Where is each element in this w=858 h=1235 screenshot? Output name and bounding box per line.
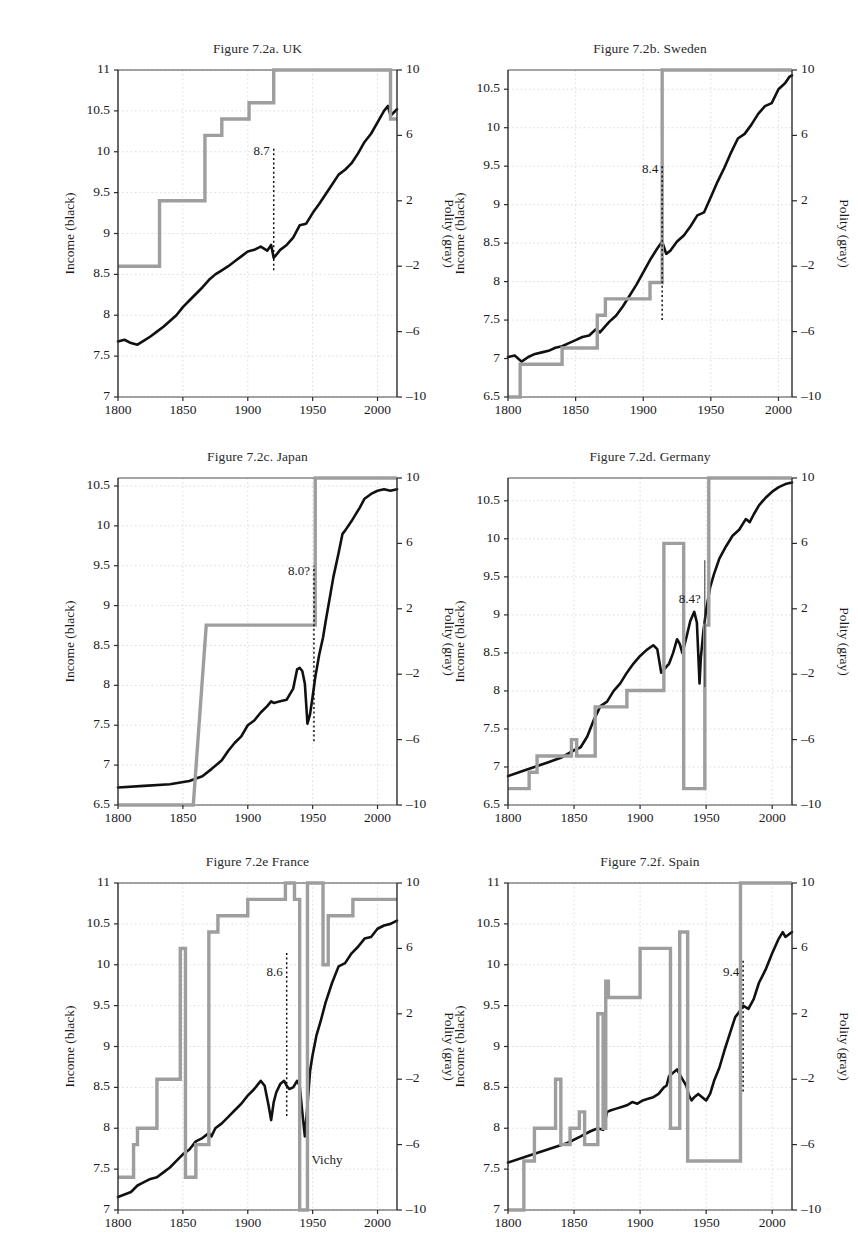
x-tick-label: 1950 (693, 1215, 720, 1230)
y-tick-label: 7 (493, 1201, 500, 1216)
x-axis-uk: 18001850190019502000 (105, 397, 392, 417)
panel-uk: Figure 7.2a. UK8.777.588.599.51010.511–1… (60, 40, 455, 425)
x-tick-label: 1800 (495, 810, 522, 825)
x-tick-label: 1800 (495, 1215, 522, 1230)
y-tick-label: 8.5 (93, 1078, 110, 1093)
y-axis-title-polity: Polity (gray) (837, 199, 850, 268)
y-tick-label: 10 (487, 119, 501, 134)
y-axis-left-spain: 77.588.599.51010.511 (476, 874, 508, 1216)
polity-tick-label: –2 (800, 1070, 815, 1085)
polity-tick-label: –6 (405, 323, 420, 338)
y-tick-label: 11 (97, 874, 110, 889)
y-tick-label: 9.5 (483, 568, 500, 583)
y-axis-left-japan: 6.577.588.599.51010.5 (86, 477, 118, 811)
polity-tick-label: –10 (405, 1201, 427, 1216)
panel-title-japan: Figure 7.2c. Japan (60, 448, 455, 466)
polity-tick-label: –2 (800, 257, 815, 272)
y-tick-label: 10 (97, 143, 111, 158)
panel-sweden: Figure 7.2b. Sweden8.46.577.588.599.5101… (450, 40, 850, 425)
polity-tick-label: 6 (801, 534, 808, 549)
polity-tick-label: –10 (800, 1201, 822, 1216)
x-tick-label: 1950 (299, 1215, 326, 1230)
annotation-label-germany-0: 8.4? (679, 591, 701, 606)
y-axis-left-sweden: 6.577.588.599.51010.5 (476, 80, 508, 403)
x-tick-label: 1800 (495, 402, 522, 417)
y-tick-label: 9 (103, 225, 110, 240)
x-axis-spain: 18001850190019502000 (495, 1210, 786, 1230)
polity-tick-label: –10 (800, 388, 822, 403)
x-tick-label: 1850 (562, 402, 589, 417)
x-tick-label: 1850 (169, 810, 196, 825)
polity-tick-label: –6 (800, 1136, 815, 1151)
y-axis-title-income: Income (black) (452, 600, 467, 682)
x-axis-germany: 18001850190019502000 (495, 805, 786, 825)
x-tick-label: 1850 (169, 402, 196, 417)
polity-series-japan (118, 478, 397, 805)
y-axis-left-uk: 77.588.599.51010.511 (86, 61, 118, 403)
y-axis-title-income: Income (black) (452, 1005, 467, 1087)
x-tick-label: 2000 (364, 402, 391, 417)
polity-tick-label: 2 (406, 1005, 413, 1020)
y-axis-left-france: 77.588.599.51010.511 (86, 874, 118, 1216)
y-tick-label: 6.5 (93, 796, 110, 811)
x-tick-label: 1950 (693, 810, 720, 825)
annotation-uk-0: 8.7 (253, 143, 273, 271)
axis-spines-sweden (508, 70, 792, 397)
gridlines-spain (508, 883, 792, 1210)
y-tick-label: 11 (487, 874, 500, 889)
y-tick-label: 9 (103, 1038, 110, 1053)
annotation-label-spain-0: 9.4 (723, 964, 740, 979)
y-tick-label: 8 (493, 1119, 500, 1134)
y-tick-label: 9.5 (483, 157, 500, 172)
plot-spain: 9.477.588.599.51010.511–10–6–22610180018… (450, 871, 850, 1235)
y-tick-label: 7.5 (93, 347, 110, 362)
y-tick-label: 9.5 (483, 997, 500, 1012)
polity-tick-label: 10 (406, 469, 420, 484)
x-tick-label: 2000 (364, 1215, 391, 1230)
y-tick-label: 8 (103, 1119, 110, 1134)
x-tick-label: 1950 (697, 402, 724, 417)
polity-reference-line-japan (118, 478, 397, 805)
y-tick-label: 7 (103, 756, 110, 771)
x-tick-label: 1850 (561, 1215, 588, 1230)
x-tick-label: 1900 (627, 1215, 654, 1230)
x-tick-label: 2000 (765, 402, 792, 417)
y-tick-label: 10 (97, 517, 111, 532)
x-tick-label: 1950 (299, 810, 326, 825)
y-tick-label: 6.5 (483, 796, 500, 811)
panel-title-uk: Figure 7.2a. UK (60, 40, 455, 58)
y-tick-label: 10.5 (86, 477, 110, 492)
polity-tick-label: –2 (405, 1070, 420, 1085)
y-tick-label: 9.5 (93, 184, 110, 199)
y-tick-label: 10.5 (476, 80, 500, 95)
annotation-label-sweden-0: 8.4 (642, 161, 659, 176)
y-axis-title-polity: Polity (gray) (837, 1012, 850, 1081)
x-tick-label: 1850 (169, 1215, 196, 1230)
y-axis-right-uk: –10–6–22610 (397, 61, 427, 403)
y-axis-right-spain: –10–6–22610 (792, 874, 822, 1216)
y-tick-label: 7.5 (483, 311, 500, 326)
y-tick-label: 8.5 (93, 637, 110, 652)
polity-tick-label: –6 (405, 1136, 420, 1151)
y-axis-right-sweden: –10–6–22610 (792, 61, 822, 403)
polity-reference-line-sweden (508, 70, 792, 397)
y-tick-label: 10.5 (86, 102, 110, 117)
x-tick-label: 1950 (299, 402, 326, 417)
x-tick-label: 1900 (627, 810, 654, 825)
panel-japan: Figure 7.2c. Japan8.0?6.577.588.599.5101… (60, 448, 455, 833)
y-tick-label: 7 (103, 1201, 110, 1216)
polity-tick-label: 2 (406, 600, 413, 615)
y-tick-label: 10 (487, 956, 501, 971)
panel-title-france: Figure 7.2e France (60, 853, 455, 871)
panel-title-germany: Figure 7.2d. Germany (450, 448, 850, 466)
x-tick-label: 1800 (105, 402, 132, 417)
x-axis-france: 18001850190019502000 (105, 1210, 392, 1230)
x-tick-label: 1900 (630, 402, 657, 417)
polity-tick-label: 6 (406, 939, 413, 954)
y-tick-label: 8.5 (483, 1078, 500, 1093)
polity-tick-label: 6 (801, 126, 808, 141)
polity-tick-label: –10 (405, 388, 427, 403)
annotation-label-uk-0: 8.7 (253, 143, 270, 158)
y-tick-label: 9 (493, 196, 500, 211)
y-tick-label: 7.5 (93, 716, 110, 731)
